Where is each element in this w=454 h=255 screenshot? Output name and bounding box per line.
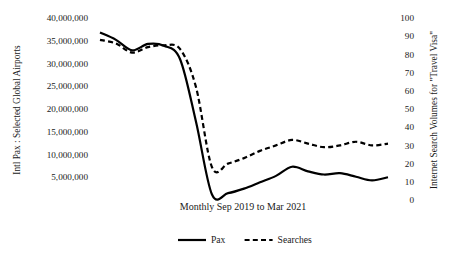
left-tick-label: 30,000,000 [47,59,89,69]
right-tick-label: 10 [405,177,415,187]
right-axis-title: Internet Search Volumes for "Travel Visa… [429,31,439,189]
right-tick-label: 100 [400,13,414,23]
right-tick-label: 0 [409,195,414,205]
left-tick-label: 25,000,000 [47,81,89,91]
right-tick-label: 60 [405,86,415,96]
chart-legend: PaxSearches [178,234,312,245]
series-line-pax [100,33,388,200]
dual-axis-line-chart: 5,000,00010,000,00015,000,00020,000,0002… [0,0,454,255]
left-tick-label: 40,000,000 [47,13,89,23]
left-tick-label: 5,000,000 [51,172,88,182]
left-tick-label: 35,000,000 [47,36,89,46]
x-axis-title: Monthly Sep 2019 to Mar 2021 [180,201,306,212]
right-tick-label: 70 [405,68,415,78]
right-axis-tick-labels: 0102030405060708090100 [400,13,414,205]
right-tick-label: 90 [405,31,415,41]
right-tick-label: 50 [405,104,415,114]
left-axis-tick-labels: 5,000,00010,000,00015,000,00020,000,0002… [47,13,89,182]
chart-container: 5,000,00010,000,00015,000,00020,000,0002… [0,0,454,255]
left-axis-title: Intl Pax : Selected Global Airports [12,45,22,175]
left-tick-label: 10,000,000 [47,150,89,160]
left-tick-label: 20,000,000 [47,104,89,114]
series-lines [100,33,388,200]
right-tick-label: 40 [405,122,415,132]
legend-label-searches: Searches [278,234,312,245]
left-tick-label: 15,000,000 [47,127,89,137]
series-line-searches [100,40,388,173]
right-tick-label: 20 [405,159,415,169]
legend-label-pax: Pax [211,234,226,245]
right-tick-label: 80 [405,50,415,60]
right-tick-label: 30 [405,141,415,151]
